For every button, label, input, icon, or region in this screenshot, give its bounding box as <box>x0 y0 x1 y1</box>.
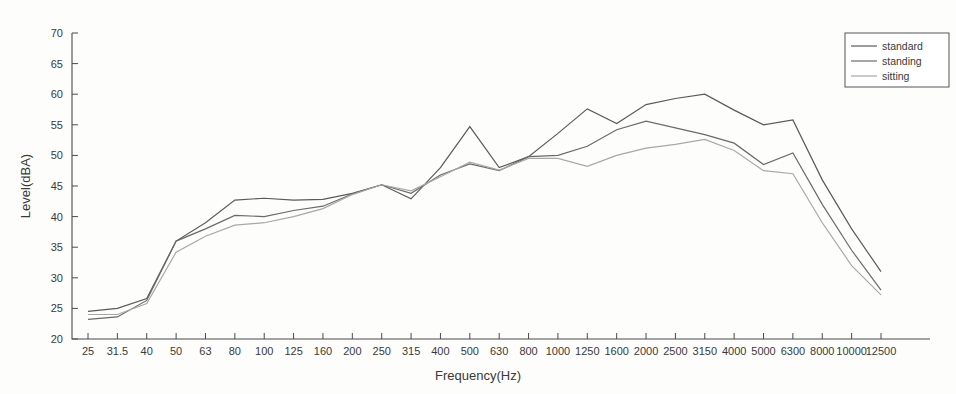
legend-label-standard: standard <box>882 40 923 52</box>
y-axis-tick-label: 40 <box>51 211 63 223</box>
x-axis-tick-label: 500 <box>461 345 479 357</box>
data-series-standard <box>88 94 881 311</box>
x-axis-tick-label: 160 <box>314 345 332 357</box>
x-axis-tick-label: 125 <box>284 345 302 357</box>
y-axis-tick-label: 60 <box>51 88 63 100</box>
y-axis-tick-label: 55 <box>51 119 63 131</box>
x-axis-tick-label: 8000 <box>810 345 834 357</box>
x-axis-tick-label: 10000 <box>836 345 867 357</box>
x-axis-tick-label: 1000 <box>546 345 570 357</box>
y-axis-tick-label: 70 <box>51 27 63 39</box>
x-axis-tick-label: 800 <box>519 345 537 357</box>
chart-legend: standardstandingsitting <box>845 33 949 87</box>
legend-label-standing: standing <box>882 55 922 67</box>
y-axis-tick-label: 65 <box>51 58 63 70</box>
y-axis-title: Level(dBA) <box>18 154 33 218</box>
x-axis-tick-label: 6300 <box>781 345 805 357</box>
x-axis-tick-label: 315 <box>402 345 420 357</box>
x-axis-tick-label: 4000 <box>722 345 746 357</box>
x-axis-tick-label: 80 <box>229 345 241 357</box>
x-axis-tick-label: 50 <box>170 345 182 357</box>
legend-label-sitting: sitting <box>882 70 910 82</box>
x-axis-tick-label: 2000 <box>634 345 658 357</box>
x-axis-tick-label: 5000 <box>751 345 775 357</box>
line-chart: 20253035404550556065702531.5405063801001… <box>0 0 956 394</box>
x-axis-title: Frequency(Hz) <box>435 368 521 383</box>
x-axis-tick-label: 25 <box>82 345 94 357</box>
y-axis-tick-label: 30 <box>51 272 63 284</box>
data-series-standing <box>88 121 881 319</box>
figure-container: 20253035404550556065702531.5405063801001… <box>0 0 956 394</box>
y-axis-tick-label: 45 <box>51 180 63 192</box>
x-axis-tick-label: 400 <box>431 345 449 357</box>
y-axis-tick-label: 35 <box>51 241 63 253</box>
x-axis-tick-label: 1250 <box>575 345 599 357</box>
x-axis-tick-label: 12500 <box>866 345 897 357</box>
x-axis-tick-label: 630 <box>490 345 508 357</box>
x-axis-tick-label: 250 <box>373 345 391 357</box>
axes-group <box>72 33 930 339</box>
x-axis-tick-label: 40 <box>141 345 153 357</box>
x-axis-tick-label: 2500 <box>663 345 687 357</box>
y-axis-tick-label: 25 <box>51 302 63 314</box>
data-series-sitting <box>88 139 881 314</box>
data-series-group <box>88 94 881 319</box>
y-axis-tick-label: 50 <box>51 149 63 161</box>
x-axis-tick-label: 63 <box>199 345 211 357</box>
x-axis-tick-label: 200 <box>343 345 361 357</box>
x-axis-tick-label: 1600 <box>604 345 628 357</box>
x-axis-tick-label: 3150 <box>693 345 717 357</box>
tick-labels-group: 20253035404550556065702531.5405063801001… <box>51 27 897 357</box>
axis-spine <box>72 33 930 339</box>
x-axis-tick-label: 100 <box>255 345 273 357</box>
y-axis-tick-label: 20 <box>51 333 63 345</box>
x-axis-tick-label: 31.5 <box>107 345 128 357</box>
